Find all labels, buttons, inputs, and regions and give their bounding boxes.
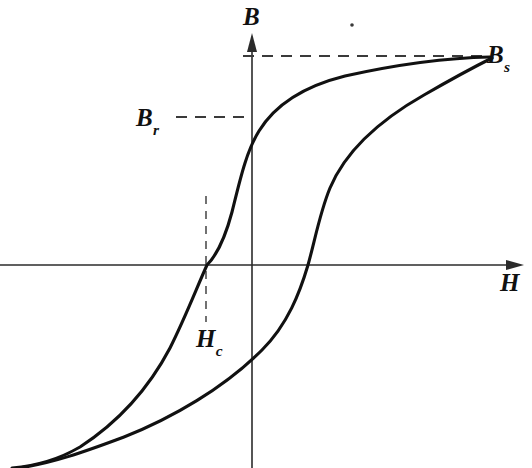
y-axis-label: B: [243, 4, 260, 29]
remanence-label: Br: [136, 105, 159, 135]
ink-speck: [350, 23, 354, 27]
coercivity-subscript: c: [216, 342, 223, 359]
hysteresis-figure: B H Bs Br Hc: [0, 0, 532, 468]
saturation-subscript: s: [504, 58, 510, 75]
remanence-subscript: r: [153, 121, 159, 138]
coercivity-label: Hc: [196, 326, 222, 356]
ascending-branch-curve: [18, 58, 492, 468]
saturation-label: Bs: [487, 42, 510, 72]
descending-branch-curve: [12, 57, 490, 468]
x-axis-label: H: [500, 270, 519, 295]
y-axis-arrowhead: [247, 33, 257, 52]
hysteresis-plot-canvas: [0, 0, 532, 468]
y-axis-group: [247, 33, 257, 468]
x-axis-group: [0, 260, 524, 270]
